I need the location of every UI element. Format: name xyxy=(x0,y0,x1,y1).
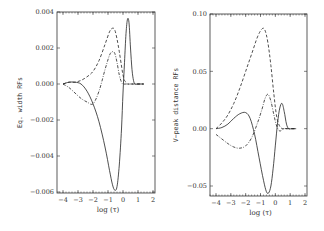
x-tick-label: 0 xyxy=(273,199,277,207)
x-tick-label: −1 xyxy=(103,196,113,204)
chart-figure: −4−3−2−10120.0040.0020.000−0.002−0.004−0… xyxy=(0,0,324,231)
y-tick-label: −0.002 xyxy=(30,116,54,124)
y-tick-label: −0.05 xyxy=(187,182,207,190)
y-axis-title: Eq. width RFs xyxy=(16,77,24,128)
y-tick-label: 0.05 xyxy=(193,68,207,76)
eq-width-rf-panel: −4−3−2−10120.0040.0020.000−0.002−0.004−0… xyxy=(16,8,155,214)
solid-curve xyxy=(216,103,296,193)
x-tick-label: −1 xyxy=(256,199,266,207)
x-axis-title: log (τ) xyxy=(249,209,272,217)
x-tick-label: −2 xyxy=(241,199,251,207)
x-tick-label: −3 xyxy=(226,199,236,207)
x-tick-label: 1 xyxy=(136,196,140,204)
x-tick-label: −3 xyxy=(73,196,83,204)
x-tick-label: −2 xyxy=(88,196,98,204)
x-axis-title: log (τ) xyxy=(97,206,120,214)
y-tick-label: 0.000 xyxy=(35,80,54,88)
y-tick-label: 0.004 xyxy=(35,8,54,16)
x-tick-label: 2 xyxy=(303,199,307,207)
dashed-curve xyxy=(216,28,296,129)
x-tick-label: −4 xyxy=(58,196,68,204)
y-tick-label: −0.004 xyxy=(30,152,54,160)
x-tick-label: 2 xyxy=(151,196,155,204)
dashed-curve xyxy=(63,28,144,84)
solid-curve xyxy=(63,18,144,190)
y-tick-label: 0.10 xyxy=(193,10,207,18)
dash-dot-curve xyxy=(63,51,144,104)
plot-frame xyxy=(210,14,307,196)
y-tick-label: 0.002 xyxy=(35,44,54,52)
y-tick-label: 0.00 xyxy=(193,125,207,133)
v-peak-distance-rf-panel: −4−3−2−10120.100.050.00−0.05log (τ)V−pea… xyxy=(172,10,307,217)
plot-frame xyxy=(57,12,155,193)
x-tick-label: 0 xyxy=(121,196,125,204)
y-axis-title: V−peak distance RFs xyxy=(172,68,180,142)
x-tick-label: 1 xyxy=(288,199,292,207)
y-tick-label: −0.006 xyxy=(30,188,54,196)
x-tick-label: −4 xyxy=(211,199,221,207)
